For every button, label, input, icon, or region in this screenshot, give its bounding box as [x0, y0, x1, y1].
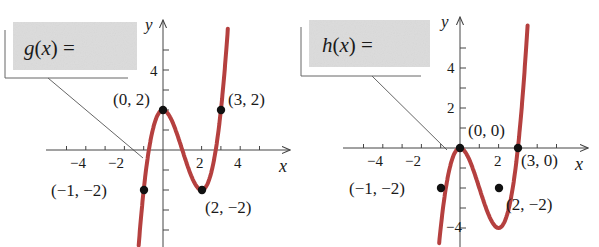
graph-g: g(x) = y x −4 −2 2 4 4 (−1, −2) (0, 2) (…: [5, 15, 290, 247]
point-h-neg1-neg2: [437, 184, 445, 192]
point-g-2-neg2: [198, 186, 206, 194]
y-tick-label: −4: [446, 219, 462, 235]
point-label: (−1, −2): [51, 181, 107, 200]
point-h-2-neg2: [495, 184, 503, 192]
x-axis-label-h: x: [574, 154, 583, 174]
x-tick-label: −2: [405, 153, 421, 169]
x-tick-label: 4: [234, 155, 242, 171]
point-label: (−1, −2): [349, 179, 405, 198]
point-label: (2, −2): [205, 198, 251, 217]
x-tick-label: 2: [494, 153, 502, 169]
x-tick-label: −4: [70, 155, 86, 171]
function-label-h: h(x) =: [322, 33, 373, 57]
point-g-3-2: [217, 106, 225, 114]
y-tick-label: 4: [447, 60, 455, 76]
graph-h: h(x) = y x −4 −2 2 4 2 −4 (−1, −2) (0, 0…: [301, 12, 588, 247]
x-tick-label: −2: [108, 155, 124, 171]
point-label: (3, 0): [521, 151, 558, 170]
point-label: (3, 2): [228, 90, 265, 109]
callout-line-h: [372, 76, 447, 150]
y-tick-label: 4: [150, 63, 158, 79]
point-label: (2, −2): [506, 195, 552, 214]
point-g-neg1-neg2: [140, 186, 148, 194]
y-axis-label-g: y: [143, 15, 153, 34]
point-g-0-2: [159, 106, 167, 114]
function-label-g: g(x) =: [24, 36, 75, 60]
point-h-0-0: [456, 144, 464, 152]
x-axis-label-g: x: [278, 156, 287, 176]
y-axis-label-h: y: [439, 12, 449, 31]
x-tick-label: 2: [196, 155, 204, 171]
x-tick-label: −4: [367, 153, 383, 169]
graphs-canvas: g(x) = y x −4 −2 2 4 4 (−1, −2) (0, 2) (…: [0, 0, 599, 247]
y-tick-label: 2: [447, 100, 455, 116]
point-label: (0, 0): [468, 121, 505, 140]
point-label: (0, 2): [113, 90, 150, 109]
